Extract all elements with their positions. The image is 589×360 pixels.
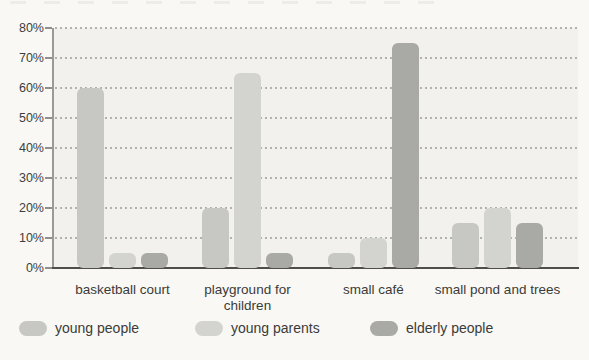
legend-label-young-parents: young parents: [231, 320, 320, 336]
x-category-label-playground-for-children: playground for children: [204, 282, 290, 314]
y-tick-label-80: 80%: [0, 21, 44, 36]
bar-small-pond-and-trees-elderly-people: [516, 223, 543, 268]
x-category-label-small-pond-and-trees: small pond and trees: [435, 282, 560, 298]
legend-swatch-young-parents: [195, 321, 223, 336]
y-tick-70: [45, 57, 52, 59]
bar-basketball-court-young-people: [77, 88, 104, 268]
y-tick-label-40: 40%: [0, 141, 44, 156]
y-tick-label-20: 20%: [0, 201, 44, 216]
grouped-bar-chart: 80%70%60%50%40%30%20%10%0%basketball cou…: [0, 0, 589, 360]
plot-area: [52, 28, 578, 268]
y-tick-80: [45, 27, 52, 29]
bar-small-pond-and-trees-young-people: [452, 223, 479, 268]
y-tick-40: [45, 147, 52, 149]
bar-group-basketball-court: [77, 88, 168, 268]
scan-artifact-strip: [10, 1, 440, 4]
bar-group-small-caf: [328, 43, 419, 268]
gridline-80: [55, 27, 578, 29]
legend-item-elderly-people: elderly people: [370, 320, 493, 336]
y-tick-30: [45, 177, 52, 179]
legend-label-young-people: young people: [55, 320, 139, 336]
y-tick-label-10: 10%: [0, 231, 44, 246]
legend-item-young-parents: young parents: [195, 320, 320, 336]
bar-playground-for-children-young-parents: [234, 73, 261, 268]
y-tick-10: [45, 237, 52, 239]
bar-small-caf-elderly-people: [392, 43, 419, 268]
legend-swatch-young-people: [19, 321, 47, 336]
bar-small-caf-young-people: [328, 253, 355, 268]
x-category-label-small-caf: small café: [343, 282, 404, 298]
legend-swatch-elderly-people: [370, 321, 398, 336]
bar-small-pond-and-trees-young-parents: [484, 208, 511, 268]
y-tick-label-60: 60%: [0, 81, 44, 96]
bar-small-caf-young-parents: [360, 238, 387, 268]
y-tick-0: [45, 267, 52, 269]
legend-label-elderly-people: elderly people: [406, 320, 493, 336]
y-tick-label-0: 0%: [0, 261, 44, 276]
bar-group-small-pond-and-trees: [452, 208, 543, 268]
y-tick-label-50: 50%: [0, 111, 44, 126]
y-tick-20: [45, 207, 52, 209]
x-category-label-basketball-court: basketball court: [75, 282, 170, 298]
y-tick-label-30: 30%: [0, 171, 44, 186]
y-tick-label-70: 70%: [0, 51, 44, 66]
bar-group-playground-for-children: [202, 73, 293, 268]
bar-basketball-court-elderly-people: [141, 253, 168, 268]
y-axis-line: [52, 28, 54, 268]
legend-item-young-people: young people: [19, 320, 139, 336]
y-tick-50: [45, 117, 52, 119]
bar-playground-for-children-elderly-people: [266, 253, 293, 268]
y-tick-60: [45, 87, 52, 89]
bar-basketball-court-young-parents: [109, 253, 136, 268]
gridline-70: [55, 57, 578, 59]
bar-playground-for-children-young-people: [202, 208, 229, 268]
